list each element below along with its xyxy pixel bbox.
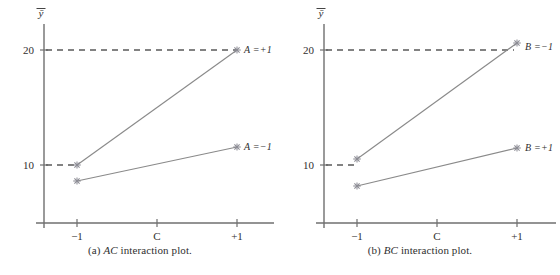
caption-ac: (a) AC interaction plot.	[0, 244, 280, 256]
series-marker-b-minus1-right	[513, 40, 521, 47]
series-marker-a-minus1-left	[73, 178, 81, 185]
x-tick-label-plus1: +1	[511, 230, 523, 242]
ac-interaction-chart: ȳ 20 10 −1 C +1	[0, 0, 280, 242]
series-line-b-plus1	[357, 148, 517, 186]
caption-ac-prefix: (a)	[88, 244, 101, 256]
caption-bc: (b) BC interaction plot.	[280, 244, 560, 256]
y-tick-label-10: 10	[303, 159, 315, 171]
series-line-a-plus1	[77, 50, 237, 165]
series-marker-b-plus1-left	[353, 183, 361, 190]
caption-ac-suffix: interaction plot.	[121, 244, 192, 256]
caption-bc-emphasis: BC	[384, 244, 398, 256]
y-tick-label-20: 20	[303, 44, 315, 56]
panel-bc: ȳ 20 10 −1 C +1	[280, 0, 560, 275]
y-tick-label-10: 10	[23, 159, 35, 171]
series-line-b-minus1	[357, 43, 517, 159]
x-axis-label: C	[433, 230, 440, 242]
series-label-b-minus1: B =−1	[525, 41, 553, 52]
series-marker-a-plus1-left	[73, 162, 81, 169]
x-tick-label-plus1: +1	[231, 230, 243, 242]
x-tick-label-minus1: −1	[71, 230, 83, 242]
panel-ac: ȳ 20 10 −1 C +1	[0, 0, 280, 275]
series-line-a-minus1	[77, 147, 237, 181]
x-axis-label: C	[153, 230, 160, 242]
series-marker-a-plus1-right	[233, 47, 241, 54]
series-label-a-minus1: A =−1	[243, 141, 272, 152]
bc-interaction-chart: ȳ 20 10 −1 C +1	[280, 0, 560, 242]
caption-bc-prefix: (b)	[368, 244, 381, 256]
series-label-a-plus1: A =+1	[243, 44, 272, 55]
series-marker-a-minus1-right	[233, 144, 241, 151]
interaction-plots-figure: ȳ 20 10 −1 C +1	[0, 0, 560, 275]
x-tick-label-minus1: −1	[351, 230, 363, 242]
series-label-b-plus1: B =+1	[525, 142, 553, 153]
caption-bc-suffix: interaction plot.	[401, 244, 472, 256]
series-marker-b-plus1-right	[513, 145, 521, 152]
caption-ac-emphasis: AC	[103, 244, 117, 256]
y-tick-label-20: 20	[23, 44, 35, 56]
series-marker-b-minus1-left	[353, 156, 361, 163]
